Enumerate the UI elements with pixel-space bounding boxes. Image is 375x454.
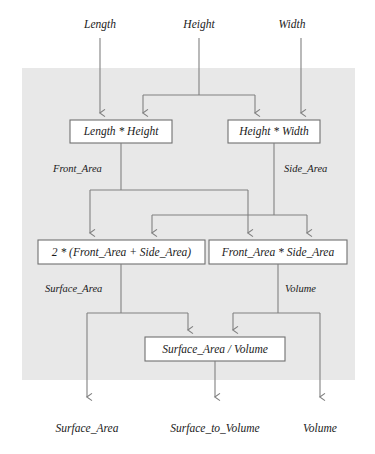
edge-label-surface-area: Surface_Area xyxy=(45,283,102,294)
box-length-height-label: Length * Height xyxy=(83,125,160,138)
diagram-panel xyxy=(22,68,355,380)
box-ratio-label: Surface_Area / Volume xyxy=(162,343,268,356)
input-label-length: Length xyxy=(83,18,116,31)
box-surface-area-label: 2 * (Front_Area + Side_Area) xyxy=(52,246,192,259)
edge-label-front-area: Front_Area xyxy=(52,163,102,174)
box-height-width-label: Height * Width xyxy=(238,125,309,138)
box-volume-label: Front_Area * Side_Area xyxy=(221,246,335,258)
output-label-surface-to-volume: Surface_to_Volume xyxy=(170,422,259,435)
edge-label-side-area: Side_Area xyxy=(284,163,327,174)
diagram-canvas: Length Height Width Length * Height Heig… xyxy=(0,0,375,454)
dataflow-diagram: Length Height Width Length * Height Heig… xyxy=(0,0,375,454)
output-label-surface-area: Surface_Area xyxy=(56,422,119,435)
edge-label-volume: Volume xyxy=(285,283,316,294)
input-label-height: Height xyxy=(182,18,215,31)
input-label-width: Width xyxy=(279,18,306,30)
output-label-volume: Volume xyxy=(303,422,337,434)
